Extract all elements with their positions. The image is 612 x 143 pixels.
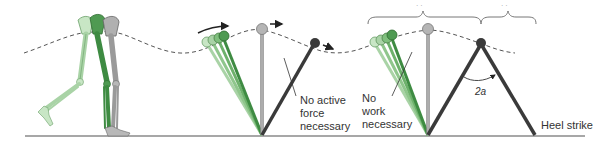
downward-arrow-icon	[323, 45, 333, 49]
no-active-force-label-2: force	[300, 107, 324, 119]
gray-pendulum-leg-2	[423, 24, 434, 136]
gray-pendulum-leg	[257, 24, 268, 136]
no-work-label-3: necessary	[362, 118, 413, 130]
green-pendulum-fan	[202, 31, 262, 135]
brace-left-label: · ·	[416, 2, 423, 9]
gait-diagram: No active force necessary · · · ·	[0, 0, 612, 143]
light-green-leg	[38, 16, 93, 126]
skeletal-legs-figure	[38, 14, 130, 136]
step-angle-label: 2a	[474, 86, 487, 97]
pendulum-panel-force: No active force necessary	[198, 24, 351, 136]
no-active-force-label-3: necessary	[300, 120, 351, 132]
heel-strike-label: Heel strike	[541, 119, 593, 131]
step-angle-arc	[464, 75, 495, 81]
no-work-label-2: work	[361, 105, 386, 117]
step-braces: · · · ·	[368, 2, 536, 24]
brace-right-label: · ·	[501, 2, 508, 9]
pendulum-panel-step: · · · ·	[361, 2, 593, 135]
no-work-label-1: No	[362, 92, 376, 104]
no-active-force-label-1: No active	[300, 94, 346, 106]
